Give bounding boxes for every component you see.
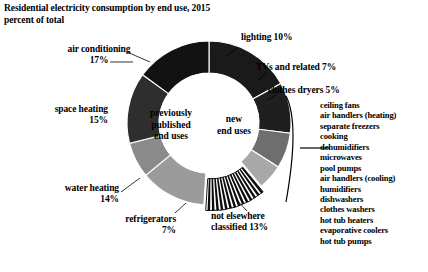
small-slice-list-item: evaporative coolers (320, 225, 396, 235)
small-slice-list-item: air handlers (cooling) (320, 173, 396, 183)
center-left-line3: end uses (154, 131, 188, 141)
small-slice-list-item: microwaves (320, 152, 396, 162)
chart-canvas: Residential electricity consumption by e… (0, 0, 428, 272)
small-slice-list-item: dehumidifiers (320, 142, 396, 152)
callout-air-conditioning: air conditioning 17% (44, 44, 154, 66)
center-left-line2: published (151, 120, 191, 130)
center-right-line1: new (226, 114, 242, 124)
small-slice-list-item: hot tub pumps (320, 236, 396, 246)
callout-not-elsewhere-line2: classified 13% (211, 222, 268, 232)
callout-air-conditioning-value: 17% (90, 55, 109, 65)
callout-water-heating-value: 14% (100, 194, 119, 204)
slice-small-item (208, 179, 211, 211)
callout-refrigerators-value: 7% (162, 225, 176, 235)
callout-air-conditioning-name: air conditioning (68, 44, 131, 54)
callout-lighting: lighting 10% (241, 32, 292, 43)
slice-small-item (212, 179, 215, 211)
callout-space-heating: space heating 15% (4, 104, 108, 126)
small-slice-list-item: ceiling fans (320, 100, 396, 110)
callout-not-elsewhere-line1: not elsewhere (211, 211, 265, 221)
small-slice-list-item: hot tub heaters (320, 215, 396, 225)
center-label-previously-published: previously published end uses (137, 108, 205, 143)
small-slice-list-item: clothes washers (320, 204, 396, 214)
center-right-line2: end uses (217, 126, 251, 136)
small-slice-list-item: pool pumps (320, 163, 396, 173)
callout-clothes-dryers: clothes dryers 5% (268, 85, 340, 96)
callout-tvs-and-related: TVs and related 7% (256, 62, 336, 73)
callout-refrigerators-name: refrigerators (125, 214, 176, 224)
small-slice-list-item: separate freezers (320, 121, 396, 131)
center-label-new-end-uses: new end uses (203, 114, 265, 137)
callout-water-heating: water heating 14% (10, 183, 119, 205)
small-slice-list-item: humidifiers (320, 184, 396, 194)
callout-water-heating-name: water heating (65, 183, 119, 193)
small-slice-list-item: air handlers (heating) (320, 110, 396, 120)
small-slice-list-item: dishwashers (320, 194, 396, 204)
callout-refrigerators: refrigerators 7% (98, 214, 176, 236)
callout-space-heating-value: 15% (89, 115, 108, 125)
callout-not-elsewhere-classified: not elsewhere classified 13% (211, 211, 268, 233)
small-slice-list-item: cooking (320, 131, 396, 141)
callout-space-heating-name: space heating (55, 104, 108, 114)
small-slice-legend-list: ceiling fansair handlers (heating)separa… (320, 100, 396, 246)
center-left-line1: previously (150, 108, 192, 118)
